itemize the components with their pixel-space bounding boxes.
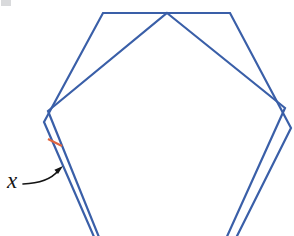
corner-artifact [1,0,11,6]
pentagon-outline [48,13,285,236]
geometry-diagram: x [0,0,294,236]
label-arrow-curve [23,171,58,184]
hexagon-outline [44,13,291,236]
x-label: x [6,168,18,193]
overlapping-polygons-figure: x [0,0,294,236]
